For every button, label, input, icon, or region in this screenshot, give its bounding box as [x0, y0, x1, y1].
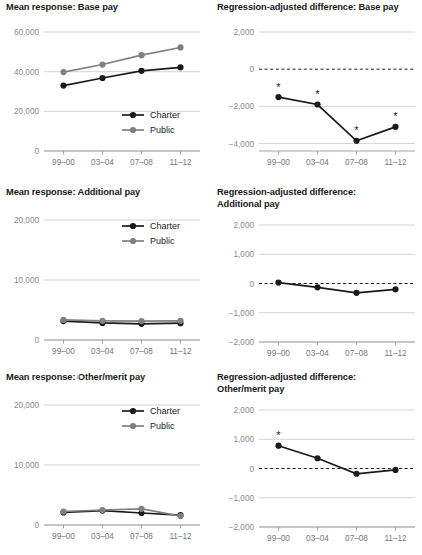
x-tick-label: 07–08: [345, 158, 368, 167]
x-tick-label: 11–12: [384, 534, 407, 543]
panel-regadj-additional-pay: Regression-adjusted difference: Addition…: [211, 185, 422, 370]
data-point: [353, 471, 359, 477]
x-tick-label: 11–12: [169, 347, 192, 356]
y-tick-label: 0: [34, 336, 39, 345]
legend-marker-charter: [130, 408, 136, 414]
data-point: [275, 94, 281, 100]
x-tick-label: 07–08: [345, 534, 368, 543]
x-tick-label: 03–04: [306, 349, 329, 358]
y-tick-label: −2,000: [229, 102, 255, 111]
x-tick-label: 99–00: [267, 349, 290, 358]
significance-asterisk: *: [354, 124, 359, 136]
y-tick-label: 2,000: [234, 221, 255, 230]
data-point: [353, 138, 359, 144]
panel-mean-base-pay: Mean response: Base pay 020,00040,00060,…: [0, 0, 211, 185]
data-point: [138, 506, 144, 512]
data-point: [60, 82, 66, 88]
plot-area: 020,00040,00060,00099–0003–0407–0811–12C…: [0, 0, 211, 185]
chart-svg-mean-other-merit-pay: 010,00020,00099–0003–0407–0811–12Charter…: [0, 370, 211, 555]
y-tick-label: 20,000: [14, 107, 39, 116]
data-point: [99, 507, 105, 513]
y-tick-label: 20,000: [14, 401, 39, 410]
data-point: [392, 124, 398, 130]
y-tick-label: 10,000: [14, 276, 39, 285]
significance-asterisk: *: [315, 88, 320, 100]
legend-marker-charter: [130, 112, 136, 118]
legend-marker-public: [130, 423, 136, 429]
series-line-difference: [279, 446, 396, 474]
x-tick-label: 99–00: [267, 534, 290, 543]
y-tick-label: 0: [34, 521, 39, 530]
y-tick-label: 0: [34, 147, 39, 156]
panel-regadj-base-pay: Regression-adjusted difference: Base pay…: [211, 0, 422, 185]
plot-area: 010,00020,00099–0003–0407–0811–12Charter…: [0, 370, 211, 555]
y-tick-label: 2,000: [234, 406, 255, 415]
pay-comparison-figure: Mean response: Base pay 020,00040,00060,…: [0, 0, 422, 555]
chart-svg-mean-base-pay: 020,00040,00060,00099–0003–0407–0811–12C…: [0, 0, 211, 185]
y-tick-label: −2,000: [229, 338, 255, 347]
y-tick-label: 2,000: [234, 28, 255, 37]
chart-svg-regadj-other-merit-pay: −2,000−1,00001,0002,00099–0003–0407–0811…: [211, 370, 422, 555]
legend-marker-public: [130, 238, 136, 244]
y-tick-label: 0: [249, 465, 254, 474]
y-tick-label: −1,000: [229, 494, 255, 503]
x-tick-label: 99–00: [52, 158, 75, 167]
data-point: [314, 101, 320, 107]
y-tick-label: 20,000: [14, 216, 39, 225]
y-tick-label: −1,000: [229, 309, 255, 318]
data-point: [177, 513, 183, 519]
x-tick-label: 07–08: [130, 532, 153, 541]
y-tick-label: 1,000: [234, 435, 255, 444]
x-tick-label: 11–12: [169, 532, 192, 541]
significance-asterisk: *: [276, 429, 281, 441]
y-tick-label: 0: [249, 280, 254, 289]
legend-marker-public: [130, 127, 136, 133]
x-tick-label: 11–12: [169, 158, 192, 167]
y-tick-label: 10,000: [14, 461, 39, 470]
data-point: [353, 290, 359, 296]
legend-marker-charter: [130, 223, 136, 229]
x-tick-label: 03–04: [91, 347, 114, 356]
x-tick-label: 07–08: [345, 349, 368, 358]
y-tick-label: 0: [249, 65, 254, 74]
data-point: [60, 69, 66, 75]
data-point: [177, 318, 183, 324]
y-tick-label: −2,000: [229, 523, 255, 532]
data-point: [177, 44, 183, 50]
x-tick-label: 03–04: [91, 532, 114, 541]
x-tick-label: 07–08: [130, 158, 153, 167]
data-point: [138, 68, 144, 74]
data-point: [60, 317, 66, 323]
plot-area: −2,000−1,00001,0002,00099–0003–0407–0811…: [211, 370, 422, 555]
significance-asterisk: *: [276, 81, 281, 93]
x-tick-label: 03–04: [306, 534, 329, 543]
data-point: [392, 467, 398, 473]
panel-mean-other-merit-pay: Mean response: Other/merit pay 010,00020…: [0, 370, 211, 555]
y-tick-label: 1,000: [234, 250, 255, 259]
plot-area: −4,000−2,00002,00099–0003–0407–0811–12**…: [211, 0, 422, 185]
x-tick-label: 11–12: [384, 158, 407, 167]
y-tick-label: −4,000: [229, 140, 255, 149]
data-point: [138, 52, 144, 58]
data-point: [275, 443, 281, 449]
data-point: [314, 284, 320, 290]
data-point: [99, 318, 105, 324]
legend-label-public: Public: [150, 125, 175, 135]
x-tick-label: 99–00: [52, 532, 75, 541]
legend-label-public: Public: [150, 421, 175, 431]
chart-svg-regadj-additional-pay: −2,000−1,00001,0002,00099–0003–0407–0811…: [211, 185, 422, 370]
legend-label-public: Public: [150, 236, 175, 246]
x-tick-label: 11–12: [384, 349, 407, 358]
data-point: [275, 280, 281, 286]
significance-asterisk: *: [393, 110, 398, 122]
y-tick-label: 40,000: [14, 68, 39, 77]
x-tick-label: 07–08: [130, 347, 153, 356]
legend-label-charter: Charter: [150, 110, 180, 120]
x-tick-label: 99–00: [267, 158, 290, 167]
legend-label-charter: Charter: [150, 406, 180, 416]
panel-regadj-other-merit-pay: Regression-adjusted difference: Other/me…: [211, 370, 422, 555]
plot-area: −2,000−1,00001,0002,00099–0003–0407–0811…: [211, 185, 422, 370]
chart-svg-mean-additional-pay: 010,00020,00099–0003–0407–0811–12Charter…: [0, 185, 211, 370]
plot-area: 010,00020,00099–0003–0407–0811–12Charter…: [0, 185, 211, 370]
chart-svg-regadj-base-pay: −4,000−2,00002,00099–0003–0407–0811–12**…: [211, 0, 422, 185]
